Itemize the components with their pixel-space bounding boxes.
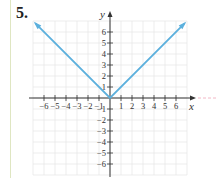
x-tick-label: 3 [141,101,145,111]
x-tick-label: −6 [39,101,48,111]
y-tick-label: 6 [102,27,106,37]
axes: xy [29,8,218,177]
y-tick-label: 2 [102,71,106,81]
x-tick-label: 6 [174,101,178,111]
y-tick-label: −4 [97,137,107,147]
y-axis-arrow-icon [108,11,113,17]
x-tick-label: 2 [130,101,134,111]
y-tick-label: −6 [97,159,106,169]
x-axis-label: x [188,100,194,112]
x-tick-label: −2 [83,101,92,111]
x-tick-label: 5 [163,101,167,111]
y-tick-label: −3 [97,126,106,136]
y-axis-label: y [99,8,105,20]
y-tick-label: −2 [97,115,106,125]
x-tick-label: −3 [72,101,81,111]
y-tick-label: 3 [102,60,106,70]
x-tick-label: −5 [50,101,59,111]
y-tick-label: 5 [102,38,106,48]
x-tick-label: 1 [119,101,123,111]
x-tick-label: −4 [61,101,71,111]
x-tick-label: 4 [152,101,157,111]
y-tick-label: −5 [97,148,106,158]
y-tick-label: −1 [97,104,106,114]
graph-y-equals-abs-x: xy −6−5−4−3−2−1123456−6−5−4−3−2−1123456 [0,0,218,178]
